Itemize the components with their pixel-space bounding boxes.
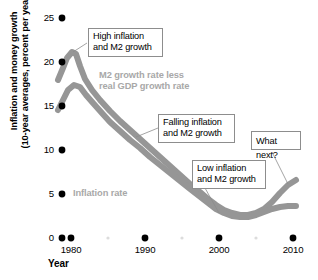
- xtick-dot-1990: [142, 235, 149, 242]
- xtick-dot-1980: [68, 235, 75, 242]
- series-label-inflation-rate: Inflation rate: [73, 188, 127, 199]
- annotation-low-inflation: Low inflation and M2 growth: [192, 160, 266, 189]
- xtick-minor-dot-2005: [254, 236, 257, 239]
- y-axis-tick-label: 15: [36, 100, 54, 111]
- x-axis-tick-label: 1980: [54, 244, 88, 255]
- leader-line-falling-inflation: [136, 128, 158, 137]
- leader-line-high-inflation: [73, 43, 87, 52]
- xtick-dot-2000: [216, 235, 223, 242]
- ytick-dot-0: [59, 235, 66, 242]
- y-axis-tick-label: 25: [36, 12, 54, 23]
- series-label-m2-growth: M2 growth rate less real GDP growth rate: [99, 70, 189, 92]
- xtick-minor-dot-1995: [180, 236, 183, 239]
- x-axis-tick-label: 1990: [128, 244, 162, 255]
- chart-container: Inflation and money growth (10-year aver…: [0, 0, 318, 280]
- y-axis-tick-label: 5: [36, 188, 54, 199]
- ytick-dot-15: [59, 103, 66, 110]
- x-axis-title: Year: [48, 258, 69, 269]
- ytick-dot-5: [59, 191, 66, 198]
- y-axis-tick-label: 20: [36, 56, 54, 67]
- x-axis-tick-label: 2010: [276, 244, 310, 255]
- y-axis-title: Inflation and money growth (10-year aver…: [9, 0, 39, 171]
- ytick-dot-25: [59, 15, 66, 22]
- annotation-what-next: What next?: [251, 131, 301, 150]
- x-axis-tick-label: 2000: [202, 244, 236, 255]
- xtick-minor-dot-1985: [106, 236, 109, 239]
- y-axis-tick-label: 10: [36, 144, 54, 155]
- ytick-dot-20: [59, 59, 66, 66]
- annotation-falling-inflation: Falling inflation and M2 growth: [158, 114, 235, 143]
- xtick-dot-2010: [290, 235, 297, 242]
- annotation-high-inflation: High inflation and M2 growth: [88, 28, 163, 57]
- ytick-dot-10: [59, 147, 66, 154]
- y-axis-tick-label: 0: [36, 232, 54, 243]
